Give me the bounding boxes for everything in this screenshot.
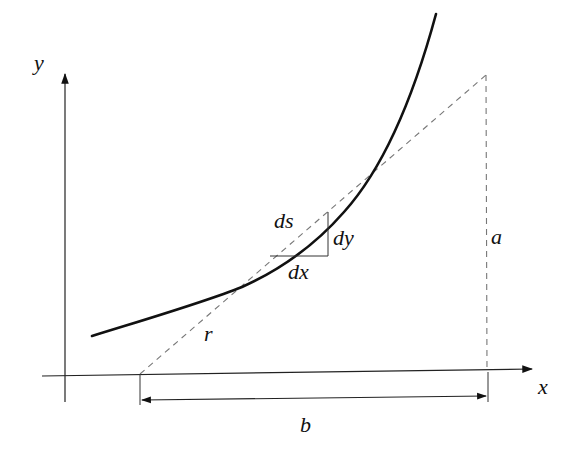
ds-label: ds bbox=[274, 208, 294, 233]
curve bbox=[92, 14, 436, 336]
dx-label: dx bbox=[288, 259, 309, 284]
x-axis-label: x bbox=[537, 374, 548, 399]
height-label: a bbox=[491, 224, 502, 249]
y-axis-label: y bbox=[32, 50, 44, 75]
radius-label: r bbox=[204, 321, 213, 346]
dy-label: dy bbox=[333, 225, 354, 250]
tangent-line-r bbox=[140, 75, 486, 374]
base-dimension-b bbox=[142, 396, 486, 400]
height-line-a bbox=[486, 75, 487, 372]
base-label: b bbox=[300, 412, 311, 437]
arc-length-diagram: y x r a ds dy dx b bbox=[0, 0, 575, 459]
x-axis bbox=[42, 369, 532, 376]
